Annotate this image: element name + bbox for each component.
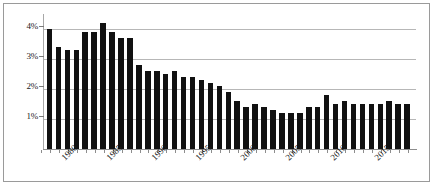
x-tick-label-2010: 2010 [329,143,348,162]
y-tick-mark [39,56,44,57]
y-tick-mark [39,86,44,87]
y-tick-mark [39,26,44,27]
x-tick-label-2015: 2015 [373,143,392,162]
x-tick-label-2000: 2000 [239,143,258,162]
x-tick-label-1990: 1990 [150,143,169,162]
chart-frame: 1%2%3%4% 1980198519901995200020052010201… [3,3,430,182]
x-tick-label-1985: 1985 [105,143,124,162]
y-tick-mark [39,116,44,117]
x-tick-label-2005: 2005 [284,143,303,162]
x-axis-labels: 19801985199019952000200520102015 [4,4,435,187]
x-tick-label-1995: 1995 [194,143,213,162]
x-tick-label-1980: 1980 [60,143,79,162]
